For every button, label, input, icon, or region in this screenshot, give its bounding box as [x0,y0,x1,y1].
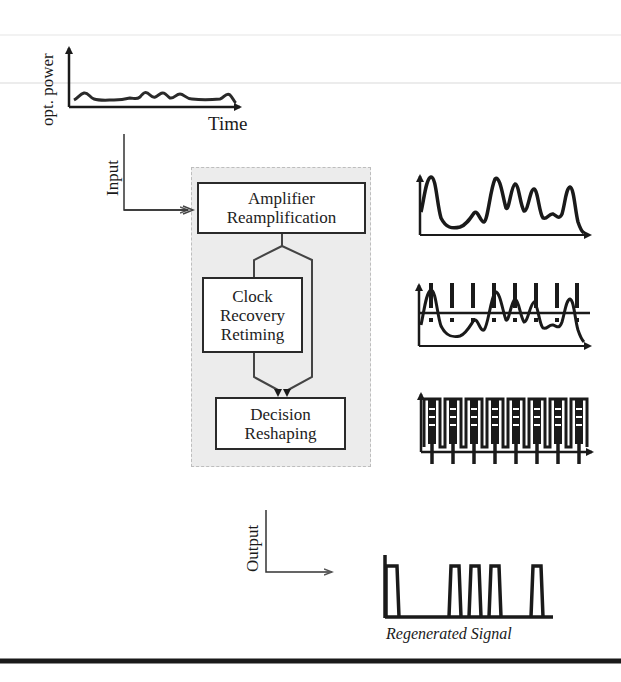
decision-title: Decision [250,405,310,424]
reshaped-fill-bars [428,400,583,444]
clock-line-2: Recovery [220,306,285,325]
waveform-reshaped [421,394,592,464]
clock-recovery-block: Clock Recovery Retiming [202,277,303,353]
x-axis-label-time: Time [208,113,247,135]
amplifier-title: Amplifier [248,189,315,208]
clock-line-3: Retiming [221,325,284,344]
clock-line-1: Clock [232,287,273,306]
regenerated-signal-caption: Regenerated Signal [386,625,512,643]
waveform-retimed [419,283,590,346]
decision-block: Decision Reshaping [215,397,346,450]
amplifier-block: Amplifier Reamplification [197,182,366,234]
output-label: Output [243,525,263,572]
input-signal-trace [74,93,236,103]
decision-subtitle: Reshaping [245,424,317,443]
reshaped-pulses [424,399,587,447]
output-arrow [266,510,332,572]
amplifier-subtitle: Reamplification [227,208,337,227]
input-power-chart [69,48,240,107]
waveform-reamplified [420,176,590,235]
faint-rule-lines [0,35,621,83]
input-label: Input [103,160,123,196]
y-axis-label-opt-power: opt. power [38,53,58,126]
regenerated-signal [385,555,553,618]
input-arrow [124,134,188,210]
